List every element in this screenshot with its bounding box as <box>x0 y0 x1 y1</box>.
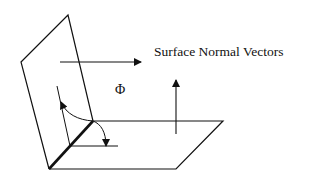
surface-normal-vectors-label: Surface Normal Vectors <box>154 44 283 60</box>
angle-arc-up-arrow <box>61 102 93 121</box>
dihedral-angle-diagram <box>0 0 317 179</box>
angle-arc-down-arrow <box>93 121 106 146</box>
hinge-edge <box>49 121 93 169</box>
angle-phi-label: Φ <box>115 82 125 98</box>
horizontal-plane <box>49 121 223 169</box>
inner-vertical-reference-line <box>57 86 70 146</box>
